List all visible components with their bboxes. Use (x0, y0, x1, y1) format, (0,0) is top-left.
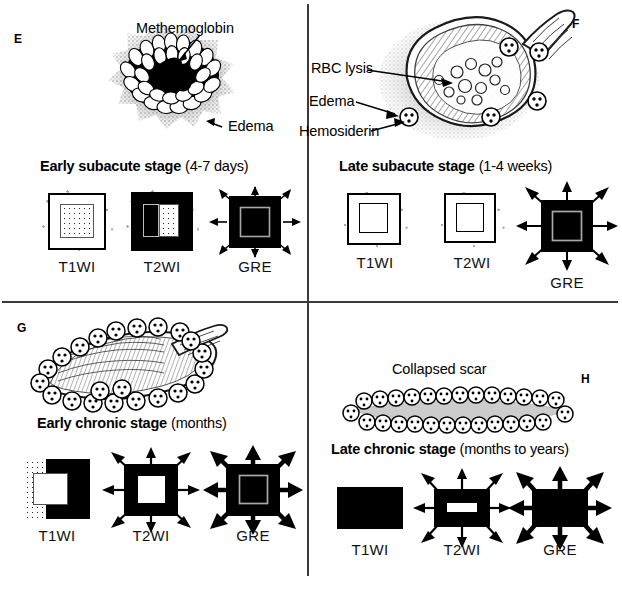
mri-T2WI-E[interactable] (122, 186, 202, 256)
inner-dark-block (143, 204, 159, 237)
stage-name-E: Early subacute stage (40, 158, 181, 174)
mri-label-T2WI-E: T2WI (122, 258, 202, 275)
mri-row-F: T1WI T2WI (309, 188, 622, 298)
stage-name-H: Late chronic stage (331, 441, 456, 457)
mri-label-T1WI-H: T1WI (333, 541, 407, 558)
stage-duration-G: (months) (171, 415, 227, 431)
gre-blooming-arrows-icon (200, 443, 306, 537)
panel-G: G (0, 303, 308, 615)
stage-duration-E: (4-7 days) (185, 158, 248, 174)
dotted-core (60, 204, 94, 238)
mri-label-T2WI-F: T2WI (437, 254, 507, 271)
late-chronic-drawing (309, 381, 622, 441)
mri-row-H: T1WI (309, 461, 622, 581)
mri-T1WI-E[interactable] (38, 186, 116, 256)
stage-caption-F: Late subacute stage (1-4 weeks) (339, 158, 552, 174)
stage-duration-H: (months to years) (460, 441, 569, 457)
mri-label-T2WI-G: T2WI (98, 527, 204, 544)
annotation-rbc-lysis: RBC lysis (311, 60, 373, 76)
mri-label-GRE-H: GRE (505, 541, 615, 558)
annotation-edema: Edema (309, 93, 354, 109)
annotation-collapsed-scar: Collapsed scar (392, 361, 487, 377)
mri-T1WI-G[interactable] (24, 459, 90, 519)
mri-label-T1WI-G: T1WI (20, 527, 94, 544)
stage-caption-G: Early chronic stage (months) (37, 415, 227, 431)
mri-label-T2WI-H: T2WI (409, 541, 515, 558)
annotation-edema: Edema (228, 118, 273, 134)
mri-row-G: T1WI (0, 443, 308, 563)
mri-row-E: T1WI T2WI (0, 186, 308, 286)
mri-label-GRE-E: GRE (208, 258, 302, 275)
mri-label-GRE-F: GRE (515, 274, 619, 291)
mri-GRE-E[interactable] (208, 186, 302, 258)
gre-blooming-arrows-icon (515, 176, 619, 272)
mri-GRE-F[interactable] (515, 176, 619, 272)
inner-square (456, 203, 484, 232)
mri-T2WI-G[interactable] (98, 443, 204, 537)
annotation-hemosiderin: Hemosiderin (299, 123, 379, 139)
lesion-rect (337, 487, 403, 529)
panel-F: F (309, 0, 622, 301)
stage-name-G: Early chronic stage (37, 415, 167, 431)
panel-E: E (0, 0, 308, 301)
stage-caption-H: Late chronic stage (months to years) (331, 441, 569, 457)
mri-T1WI-H[interactable] (337, 487, 403, 529)
mri-label-T1WI-E: T1WI (38, 258, 116, 275)
stage-name-F: Late subacute stage (339, 158, 475, 174)
dotted-core (159, 204, 179, 237)
mri-T2WI-F[interactable] (437, 188, 507, 252)
stage-caption-E: Early subacute stage (4-7 days) (40, 158, 248, 174)
mri-T1WI-F[interactable] (340, 188, 410, 252)
panel-H: H Collapsed scar (309, 303, 622, 615)
stage-duration-F: (1-4 weeks) (479, 158, 553, 174)
mri-label-T1WI-F: T1WI (340, 254, 410, 271)
gre-blooming-arrows-icon (208, 186, 302, 258)
t2-blooming-arrows-icon (98, 443, 204, 537)
early-chronic-drawing (0, 311, 308, 421)
inner-core (33, 473, 68, 505)
figure-container: E (0, 0, 622, 615)
mri-GRE-G[interactable] (200, 443, 306, 537)
annotation-methemoglobin: Methemoglobin (136, 20, 234, 36)
inner-square (359, 203, 388, 233)
mri-label-GRE-G: GRE (200, 527, 306, 544)
